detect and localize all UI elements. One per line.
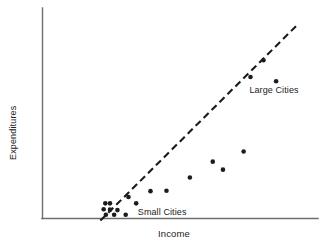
data-point	[101, 207, 106, 212]
data-point	[112, 212, 117, 217]
trend-line-dashed	[100, 25, 297, 221]
data-point	[115, 208, 120, 213]
data-point	[134, 201, 139, 206]
data-point	[188, 175, 193, 180]
scatter-plot-figure: Expenditures Income Small Cities Large C…	[0, 0, 320, 252]
data-point	[108, 207, 113, 212]
data-point	[108, 201, 113, 206]
data-point	[126, 195, 131, 200]
data-point	[103, 201, 108, 206]
data-point	[261, 58, 266, 63]
data-point	[210, 159, 215, 164]
axes-group	[42, 8, 318, 219]
data-point	[248, 75, 253, 80]
data-point	[104, 212, 109, 217]
data-point	[164, 188, 169, 193]
y-axis-label-text: Expenditures	[8, 106, 18, 160]
x-axis-label: Income	[158, 228, 190, 239]
data-point	[221, 167, 226, 172]
annotation-small-cities: Small Cities	[138, 207, 187, 217]
trend-line-group	[100, 25, 297, 221]
data-point	[123, 212, 128, 217]
data-point	[148, 189, 153, 194]
data-point	[274, 79, 279, 84]
data-point	[241, 149, 246, 154]
annotation-large-cities: Large Cities	[249, 85, 298, 95]
